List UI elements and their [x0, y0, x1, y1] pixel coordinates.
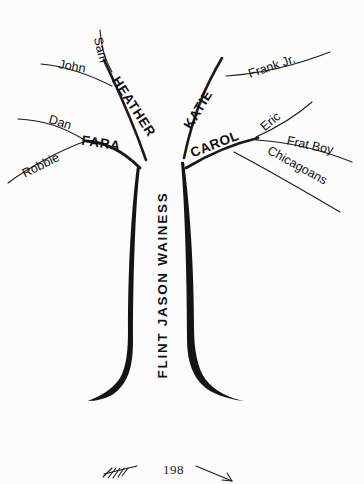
trunk-left-stroke — [88, 166, 140, 401]
diagram-page: Sam John HEATHER Dan FARA Robbie KATIE F… — [0, 0, 364, 484]
label-frank-jr: Frank Jr. — [247, 52, 298, 81]
label-dan: Dan — [47, 112, 73, 132]
footer-left-ornament — [103, 466, 137, 478]
family-tree-diagram: Sam John HEATHER Dan FARA Robbie KATIE F… — [0, 0, 364, 484]
footer-page-number: 198 — [163, 462, 184, 477]
label-fara: FARA — [81, 133, 122, 154]
label-robbie: Robbie — [20, 150, 62, 180]
trunk-right-stroke — [181, 162, 244, 401]
label-sam: Sam — [91, 36, 111, 64]
label-frat-boy: Frat Boy — [286, 134, 336, 158]
footer-right-ornament — [196, 466, 232, 481]
trunk-label-name: FLINT JASON WAINESS — [155, 192, 170, 379]
label-john: John — [58, 57, 87, 76]
label-carol: CAROL — [188, 128, 241, 160]
label-katie: KATIE — [181, 87, 216, 131]
label-eric: Eric — [258, 109, 283, 134]
